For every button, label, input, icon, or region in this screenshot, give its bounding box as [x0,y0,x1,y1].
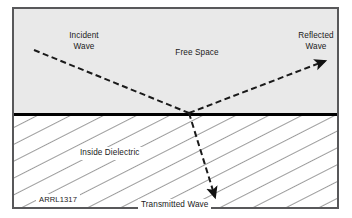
label-reflected-line2: Wave [286,42,346,53]
label-incident-line2: Wave [56,42,112,53]
figure-credit-label: ARRL1317 [36,194,80,207]
label-incident-line1: Incident [56,31,112,42]
label-reflected-wave: Reflected Wave [286,31,346,52]
figure-canvas: Incident Wave Reflected Wave Free Space … [0,0,352,218]
label-free-space: Free Space [162,48,232,59]
label-incident-wave: Incident Wave [56,31,112,52]
label-reflected-line1: Reflected [286,31,346,42]
figure-frame: Incident Wave Reflected Wave Free Space … [12,7,339,209]
label-transmitted-wave: Transmitted Wave [138,199,211,212]
label-inside-dielectric: Inside Dielectric [77,147,143,160]
